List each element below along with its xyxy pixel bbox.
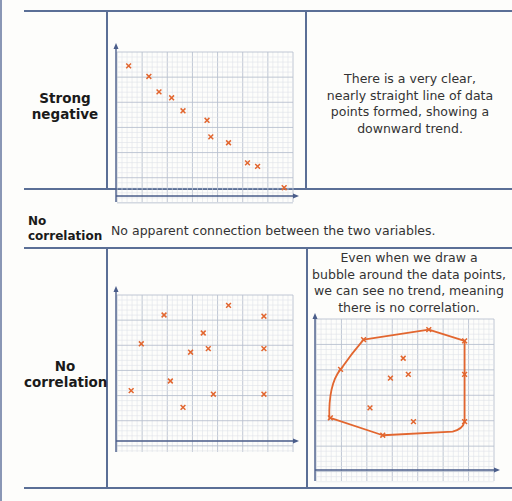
y-axis-arrow xyxy=(313,313,318,319)
x-mark xyxy=(201,331,206,336)
description-line: we can see no trend, meaning xyxy=(306,283,512,300)
section-definition: No apparent connection between the two v… xyxy=(111,223,436,238)
section-label-line: correlation xyxy=(28,229,102,244)
bubble-outline xyxy=(329,330,464,436)
scatter-chart-no-correlation-bubble xyxy=(311,313,501,488)
x-mark xyxy=(406,372,411,377)
left-edge-rule xyxy=(0,0,2,501)
row-description-no-correlation: Even when we draw a bubble around the da… xyxy=(306,250,512,316)
description-line: downward trend. xyxy=(310,121,510,138)
data-point-marker xyxy=(205,118,210,123)
data-point-marker xyxy=(169,95,174,100)
scatter-chart-no-correlation xyxy=(112,283,302,458)
data-point-marker xyxy=(406,372,411,377)
row-label-line: negative xyxy=(24,106,106,122)
description-line: points formed, showing a xyxy=(310,104,510,121)
x-axis-arrow xyxy=(494,468,500,473)
description-line: nearly straight line of data xyxy=(310,88,510,105)
data-point-marker xyxy=(411,419,416,424)
row-label-strong-negative: Strong negative xyxy=(24,90,106,122)
row1-divider-right xyxy=(305,11,307,189)
row-label-line: correlation xyxy=(24,374,106,390)
x-mark xyxy=(262,314,267,319)
description-line: Even when we draw a xyxy=(306,250,512,267)
x-axis-arrow xyxy=(293,439,299,444)
top-rule xyxy=(24,10,512,12)
row-label-no-correlation: No correlation xyxy=(24,358,106,390)
section-bottom-rule xyxy=(24,247,512,249)
scatter-chart-strong-negative xyxy=(112,40,302,210)
section-label-no-correlation: No correlation xyxy=(28,214,102,244)
x-mark xyxy=(205,118,210,123)
description-line: bubble around the data points, xyxy=(306,267,512,284)
row2-divider-left xyxy=(106,248,108,488)
x-axis-arrow xyxy=(293,194,299,199)
section-label-line: No xyxy=(28,214,102,229)
x-mark xyxy=(226,303,231,308)
x-mark xyxy=(169,95,174,100)
description-line: There is a very clear, xyxy=(310,71,510,88)
row-label-line: Strong xyxy=(24,90,106,106)
row-label-line: No xyxy=(24,358,106,374)
row1-divider-left xyxy=(106,11,108,189)
x-mark xyxy=(411,419,416,424)
y-axis-arrow xyxy=(114,43,119,49)
y-axis-arrow xyxy=(114,286,119,292)
data-point-marker xyxy=(201,331,206,336)
data-point-marker xyxy=(226,303,231,308)
data-point-marker xyxy=(262,314,267,319)
row-description-strong-negative: There is a very clear, nearly straight l… xyxy=(310,71,510,137)
